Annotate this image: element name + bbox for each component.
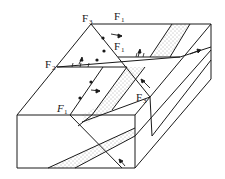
label-f3-top: F3 bbox=[82, 12, 93, 26]
svg-text:F: F bbox=[114, 10, 120, 22]
svg-text:3: 3 bbox=[143, 97, 147, 105]
fault-block-diagram: F3 F1 F1 F2 F1 F3 bbox=[0, 0, 225, 179]
label-f1-low: F1 bbox=[56, 102, 68, 116]
stippled-layer-top-back bbox=[152, 24, 190, 57]
svg-text:F: F bbox=[82, 12, 88, 24]
svg-text:F: F bbox=[56, 102, 64, 114]
svg-text:F: F bbox=[136, 91, 142, 103]
label-f1-mid: F1 bbox=[114, 40, 125, 54]
label-f1-top: F1 bbox=[114, 10, 125, 24]
svg-text:3: 3 bbox=[89, 18, 93, 26]
svg-text:1: 1 bbox=[64, 108, 68, 116]
svg-text:F: F bbox=[45, 58, 51, 70]
label-f2: F2 bbox=[45, 58, 56, 72]
svg-text:1: 1 bbox=[121, 46, 125, 54]
svg-text:2: 2 bbox=[52, 64, 56, 72]
fault-dot bbox=[101, 36, 104, 39]
svg-text:1: 1 bbox=[121, 16, 125, 24]
label-f3-right: F3 bbox=[136, 91, 147, 105]
svg-text:F: F bbox=[114, 40, 120, 52]
